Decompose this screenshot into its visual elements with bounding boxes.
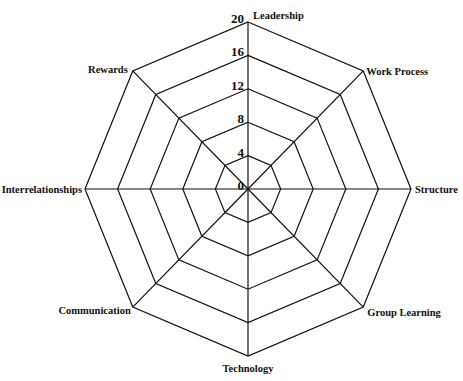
radar-chart: 048121620 LeadershipWork ProcessStructur… xyxy=(0,0,463,381)
tick-label: 4 xyxy=(238,145,245,160)
category-label-structure: Structure xyxy=(415,184,458,195)
category-label-interrelationships: Interrelationships xyxy=(2,184,82,195)
category-label-communication: Communication xyxy=(58,305,130,316)
tick-label: 16 xyxy=(231,44,245,59)
tick-label: 12 xyxy=(231,78,244,93)
category-label-technology: Technology xyxy=(223,363,275,374)
category-label-leadership: Leadership xyxy=(253,10,304,21)
tick-label: 0 xyxy=(238,178,245,193)
category-label-group-learning: Group Learning xyxy=(367,307,441,318)
tick-label: 8 xyxy=(238,111,245,126)
category-label-rewards: Rewards xyxy=(88,64,128,75)
tick-label: 20 xyxy=(231,11,244,26)
category-labels: LeadershipWork ProcessStructureGroup Lea… xyxy=(2,10,459,374)
radial-tick-labels: 048121620 xyxy=(231,11,245,193)
category-label-work-process: Work Process xyxy=(366,66,428,77)
radar-axes xyxy=(85,22,411,356)
